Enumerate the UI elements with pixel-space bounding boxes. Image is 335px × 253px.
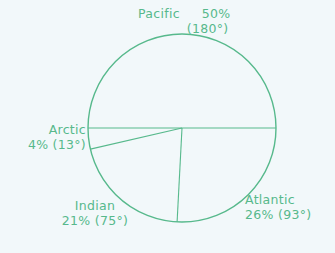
slice-label-atlantic-value: 26% (93°) [245, 207, 335, 222]
slice-label-pacific-percent: 50% [202, 6, 231, 21]
slice-label-atlantic-name: Atlantic [245, 192, 335, 207]
slice-label-atlantic: Atlantic 26% (93°) [245, 192, 335, 222]
pie-chart: Pacific50% (180°) Arctic 4% (13°) Indian… [0, 0, 335, 253]
slice-label-arctic-name: Arctic [0, 122, 86, 137]
slice-label-indian: Indian 21% (75°) [44, 198, 146, 228]
divider-arctic-indian [90, 128, 182, 149]
slice-label-pacific-degrees: (180°) [138, 21, 231, 36]
slice-label-pacific-name: Pacific [138, 6, 180, 21]
slice-label-arctic: Arctic 4% (13°) [0, 122, 86, 152]
divider-indian-atlantic [177, 128, 182, 222]
slice-label-indian-name: Indian [44, 198, 146, 213]
slice-label-arctic-value: 4% (13°) [0, 137, 86, 152]
slice-label-indian-value: 21% (75°) [44, 213, 146, 228]
slice-label-pacific: Pacific50% (180°) [138, 6, 231, 36]
